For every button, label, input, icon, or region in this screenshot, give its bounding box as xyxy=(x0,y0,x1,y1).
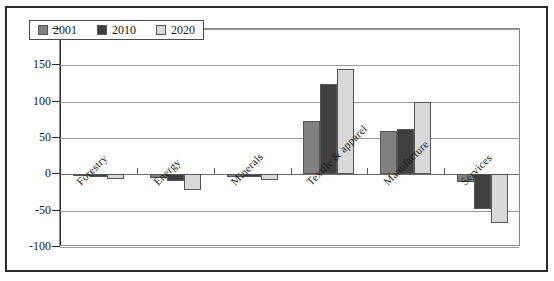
y-axis-tick-label: -100 xyxy=(11,240,51,252)
x-axis-separator-tick xyxy=(367,168,368,174)
legend-swatch-icon xyxy=(156,25,166,35)
bar xyxy=(474,174,491,209)
y-axis-tick-label: 100 xyxy=(11,95,51,107)
y-tick--50 xyxy=(52,210,60,211)
gridline-0 xyxy=(60,174,519,175)
x-axis-separator-tick xyxy=(444,168,445,174)
bar xyxy=(491,174,508,223)
legend-label: 2001 xyxy=(53,24,77,36)
y-tick-100 xyxy=(52,101,60,102)
plot-area xyxy=(59,28,520,246)
y-tick-200 xyxy=(52,28,60,29)
bar xyxy=(107,174,124,179)
x-axis-separator-tick xyxy=(291,168,292,174)
x-axis-separator-tick xyxy=(137,168,138,174)
legend-label: 2010 xyxy=(112,24,136,36)
y-axis-labels: 200150100500-50-100 xyxy=(7,8,51,270)
gridline--50 xyxy=(60,211,519,212)
y-axis-tick-label: 50 xyxy=(11,131,51,143)
bar xyxy=(184,174,201,190)
y-axis-tick-label: 150 xyxy=(11,58,51,70)
chart-legend: 200120102020 xyxy=(29,20,204,40)
gridline--100 xyxy=(60,247,519,248)
legend-swatch-icon xyxy=(97,25,107,35)
y-tick-50 xyxy=(52,137,60,138)
y-axis-tick-label: -50 xyxy=(11,204,51,216)
legend-item: 2020 xyxy=(156,24,195,36)
legend-label: 2020 xyxy=(171,24,195,36)
gridline-50 xyxy=(60,138,519,139)
y-axis-tick-label: 0 xyxy=(11,167,51,179)
legend-item: 2010 xyxy=(97,24,136,36)
gridline-150 xyxy=(60,65,519,66)
y-tick-0 xyxy=(52,173,60,174)
legend-swatch-icon xyxy=(38,25,48,35)
x-axis-separator-tick xyxy=(214,168,215,174)
legend-item: 2001 xyxy=(38,24,77,36)
chart-frame: 200150100500-50-100 ForestryEnergyMinera… xyxy=(5,6,548,272)
gridline-100 xyxy=(60,102,519,103)
y-tick-150 xyxy=(52,64,60,65)
bar xyxy=(261,174,278,180)
y-tick--100 xyxy=(52,246,60,247)
